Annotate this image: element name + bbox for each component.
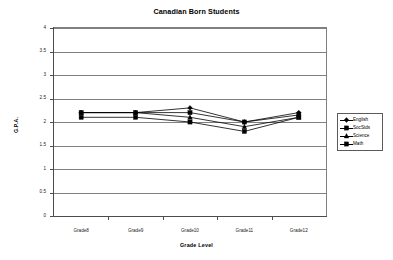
legend-marker-icon	[340, 116, 353, 124]
x-axis-tick-mark	[108, 217, 109, 220]
data-point	[297, 115, 301, 119]
legend-marker-icon	[340, 124, 353, 132]
y-axis-tick-label: 1	[0, 167, 46, 172]
legend-marker-icon	[340, 140, 353, 148]
y-axis-tick-mark	[50, 193, 53, 194]
legend-item-science[interactable]: Science	[340, 132, 380, 140]
data-point	[188, 120, 192, 124]
x-axis-tick-label: Grade11	[214, 229, 274, 234]
data-point	[134, 115, 138, 119]
data-point	[242, 129, 246, 133]
x-axis-title: Grade Level	[0, 242, 393, 248]
legend-marker-icon	[340, 132, 353, 140]
y-axis-tick-mark	[50, 122, 53, 123]
y-axis-tick-label: 0.5	[0, 190, 46, 195]
y-axis-tick-mark	[50, 75, 53, 76]
y-axis-title: G.P.A.	[13, 105, 19, 145]
x-axis-line	[53, 216, 327, 217]
x-axis-tick-label: Grade8	[51, 229, 111, 234]
data-point	[242, 120, 246, 124]
x-axis-tick-mark	[217, 217, 218, 220]
chart-canvas: Canadian Born Students 00.511.522.533.54…	[0, 0, 393, 260]
chart-legend: EnglishSocStdsScienceMath	[337, 113, 383, 151]
data-point	[188, 106, 193, 111]
y-axis-tick-mark	[50, 99, 53, 100]
legend-item-label: SocStds	[353, 126, 370, 131]
y-axis-tick-label: 1.5	[0, 143, 46, 148]
y-axis-tick-label: 3.5	[0, 49, 46, 54]
y-axis-tick-mark	[50, 216, 53, 217]
legend-item-english[interactable]: English	[340, 116, 380, 124]
y-axis-tick-label: 0	[0, 214, 46, 219]
data-point	[188, 111, 192, 115]
x-axis-tick-label: Grade12	[269, 229, 329, 234]
y-axis-tick-label: 3	[0, 73, 46, 78]
series-lines	[54, 28, 326, 216]
x-axis-tick-label: Grade9	[106, 229, 166, 234]
x-axis-tick-mark	[272, 217, 273, 220]
data-point	[79, 115, 83, 119]
y-axis-tick-mark	[50, 28, 53, 29]
y-axis-line	[53, 27, 54, 217]
y-axis-tick-mark	[50, 52, 53, 53]
y-axis-tick-label: 2	[0, 120, 46, 125]
y-axis-tick-label: 4	[0, 26, 46, 31]
legend-item-label: English	[353, 118, 368, 123]
legend-item-math[interactable]: Math	[340, 140, 380, 148]
y-axis-tick-mark	[50, 146, 53, 147]
legend-item-label: Math	[353, 142, 363, 147]
legend-item-label: Science	[353, 134, 369, 139]
y-axis-tick-mark	[50, 169, 53, 170]
x-axis-tick-label: Grade10	[160, 229, 220, 234]
legend-item-socstds[interactable]: SocStds	[340, 124, 380, 132]
plot-area	[53, 27, 327, 217]
chart-title: Canadian Born Students	[0, 7, 393, 16]
x-axis-tick-mark	[163, 217, 164, 220]
y-axis-tick-label: 2.5	[0, 96, 46, 101]
